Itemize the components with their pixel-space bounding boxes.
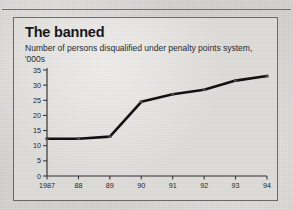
data-point-marker — [203, 88, 206, 91]
y-tick-label: 20 — [33, 111, 41, 120]
data-point-markers — [45, 75, 268, 140]
chart-panel: The banned Number of persons disqualifie… — [13, 17, 278, 201]
y-tick-label: 15 — [33, 126, 41, 135]
y-tick-label: 5 — [37, 156, 41, 165]
data-line-series — [47, 76, 267, 139]
x-tick-label: 93 — [232, 181, 240, 190]
data-point-marker — [77, 137, 80, 140]
y-tick-label: 35 — [33, 66, 41, 75]
data-point-marker — [171, 93, 174, 96]
y-tick-label: 10 — [33, 141, 41, 150]
chart-title: The banned — [25, 24, 104, 40]
x-tick-label: 91 — [169, 181, 177, 190]
line-chart-svg: 05101520253035 198788899091929394 — [25, 66, 271, 194]
data-point-marker — [234, 79, 237, 82]
header-divider-rule — [2, 9, 291, 10]
x-tick-label: 88 — [74, 181, 82, 190]
data-point-marker — [45, 137, 48, 140]
data-point-marker — [108, 135, 111, 138]
y-tick-label: 0 — [37, 172, 41, 181]
y-axis-ticks: 05101520253035 — [33, 66, 47, 181]
chart-subtitle: Number of persons disqualified under pen… — [25, 43, 257, 64]
data-point-marker — [140, 101, 143, 104]
y-tick-label: 25 — [33, 96, 41, 105]
x-tick-label: 92 — [200, 181, 208, 190]
x-tick-label: 90 — [137, 181, 145, 190]
y-tick-label: 30 — [33, 81, 41, 90]
x-tick-label: 89 — [106, 181, 114, 190]
plot-area: 05101520253035 198788899091929394 — [25, 66, 271, 194]
data-point-marker — [265, 75, 268, 78]
x-tick-label: 94 — [263, 181, 271, 190]
x-tick-label: 1987 — [39, 181, 55, 190]
x-axis-ticks: 198788899091929394 — [39, 176, 271, 190]
